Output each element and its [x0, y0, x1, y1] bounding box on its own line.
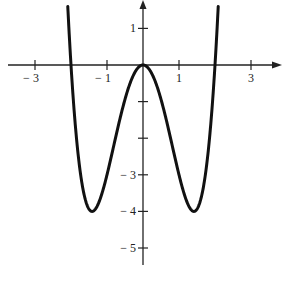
axes: [8, 0, 282, 265]
y-tick-label: 1: [130, 21, 136, 35]
x-axis-arrow-icon: [272, 62, 282, 69]
x-tick-label: 3: [248, 71, 254, 85]
x-tick-label: − 3: [23, 71, 39, 85]
x-tick-label: − 1: [95, 71, 111, 85]
y-axis-arrow-icon: [140, 0, 147, 9]
y-tick-label: − 4: [120, 204, 136, 218]
graph: − 3− 1131− 3− 4− 5: [0, 0, 290, 283]
y-tick-label: − 3: [120, 168, 136, 182]
y-tick-label: − 5: [120, 241, 136, 255]
x-tick-label: 1: [176, 71, 182, 85]
